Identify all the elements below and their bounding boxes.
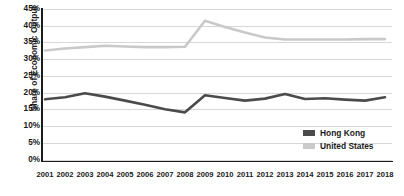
legend-label: Hong Kong [320,128,365,138]
legend: Hong KongUnited States [303,126,399,152]
y-tick-label: 20% [2,89,40,97]
y-tick-label: 35% [2,38,40,46]
x-axis-line [41,161,393,163]
series-line-hong-kong [45,93,385,112]
y-tick-label: 5% [2,139,40,147]
y-tick-label: 0% [2,156,40,164]
y-tick-label: 40% [2,22,40,30]
y-tick-label: 30% [2,55,40,63]
y-tick-label: 10% [2,122,40,130]
x-tick-label: 2018 [368,170,402,179]
legend-item[interactable]: United States [303,139,399,152]
legend-item[interactable]: Hong Kong [303,126,399,139]
series-line-united-states [45,21,385,51]
y-tick-label: 15% [2,105,40,113]
y-tick-label: 45% [2,5,40,13]
y-tick-label: 25% [2,72,40,80]
legend-swatch-icon [303,143,315,149]
legend-swatch-icon [303,130,315,136]
legend-label: United States [320,141,374,151]
x-axis-tick-labels: 2001200220032004200520062007200820092010… [0,170,404,184]
line-chart: Share of Economic Output 45%40%35%30%25%… [0,0,404,196]
y-axis-tick-labels: 45%40%35%30%25%20%15%10%5%0% [0,0,40,196]
